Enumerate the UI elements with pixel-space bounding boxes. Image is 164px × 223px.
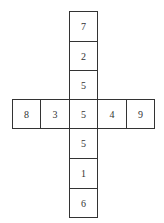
cell-row-1: 8: [12, 99, 41, 129]
cell-top-1: 7: [69, 11, 98, 42]
cell-bottom-3: 6: [69, 188, 98, 218]
cell-row-2: 3: [40, 99, 70, 129]
cell-top-2: 2: [69, 41, 98, 71]
cell-bottom-1: 5: [69, 128, 98, 159]
cell-top-3: 5: [69, 70, 98, 100]
cell-bottom-2: 1: [69, 158, 98, 189]
cell-center: 5: [69, 99, 98, 129]
cell-row-4: 4: [97, 99, 127, 129]
cell-row-5: 9: [126, 99, 155, 129]
